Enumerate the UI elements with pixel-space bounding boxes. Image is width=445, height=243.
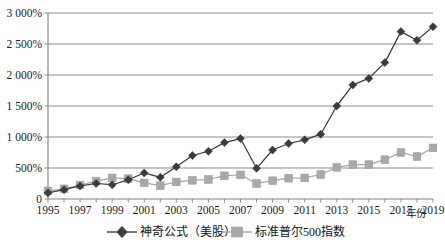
legend-item-sp500[interactable]: 标准普尔500指数 (222, 224, 345, 239)
data-point-square (317, 171, 325, 179)
data-point-diamond (220, 139, 228, 147)
x-tick-label: 2001 (133, 204, 156, 216)
x-tick-label: 2011 (293, 204, 316, 216)
x-tick-label: 1999 (101, 204, 124, 216)
x-tick-label: 1995 (37, 204, 60, 216)
x-axis-title: 年份 (406, 207, 427, 219)
y-tick-labels: 0500%1 000%1 500%2 000%2 500%3 000% (7, 7, 43, 205)
x-tick-label: 1997 (69, 204, 92, 216)
chart-container: 0500%1 000%1 500%2 000%2 500%3 000% 1995… (0, 0, 445, 243)
data-point-diamond (140, 169, 148, 177)
data-point-square (221, 172, 229, 180)
data-point-square (429, 144, 437, 152)
y-tick-label: 3 000% (7, 7, 43, 19)
data-point-square (349, 161, 357, 169)
data-point-square (301, 174, 309, 182)
series-magic-formula (44, 23, 437, 197)
legend-label-sp500: 标准普尔500指数 (255, 224, 345, 239)
data-point-square (156, 182, 164, 190)
legend-item-magic-formula[interactable]: 神奇公式（美股） (107, 225, 236, 239)
x-tick-label: 2005 (197, 204, 220, 216)
x-tick-label: 2013 (325, 204, 348, 216)
data-point-square (140, 179, 148, 187)
data-point-square (285, 174, 293, 182)
diamond-marker-icon (117, 226, 127, 238)
data-point-diamond (285, 140, 293, 148)
data-point-diamond (156, 173, 164, 181)
series-markers-magic-formula (44, 23, 437, 197)
y-tick-label: 2 500% (7, 38, 43, 50)
data-point-square (173, 178, 181, 186)
data-point-diamond (172, 163, 180, 171)
x-tick-label: 2015 (357, 204, 380, 216)
legend-label-magic-formula: 神奇公式（美股） (140, 225, 236, 239)
series-sp500 (44, 144, 437, 195)
x-tick-labels: 1995199719992001200320052007200920112013… (37, 204, 445, 216)
chart-legend: 神奇公式（美股） 标准普尔500指数 (107, 224, 345, 239)
x-tick-label: 2003 (165, 204, 188, 216)
data-point-diamond (237, 135, 245, 143)
data-point-square (397, 149, 405, 157)
y-tick-label: 500% (15, 162, 42, 174)
y-tick-label: 2 000% (7, 69, 43, 81)
series-markers-sp500 (44, 144, 437, 195)
data-point-square (381, 156, 389, 164)
data-point-square (333, 164, 341, 172)
data-point-square (189, 177, 197, 185)
data-point-diamond (397, 28, 405, 36)
data-point-diamond (188, 152, 196, 160)
data-point-diamond (204, 147, 212, 155)
data-point-square (205, 176, 213, 184)
y-tick-label: 1 500% (7, 100, 43, 112)
data-point-square (269, 177, 277, 185)
data-point-square (413, 153, 421, 161)
data-point-square (365, 161, 373, 169)
line-chart: 0500%1 000%1 500%2 000%2 500%3 000% 1995… (0, 0, 445, 243)
x-tick-label: 2007 (229, 204, 252, 216)
y-tick-label: 1 000% (7, 131, 43, 143)
x-tick-label: 2009 (261, 204, 284, 216)
data-point-square (237, 171, 245, 179)
square-marker-icon (232, 227, 243, 237)
data-point-square (253, 180, 261, 188)
